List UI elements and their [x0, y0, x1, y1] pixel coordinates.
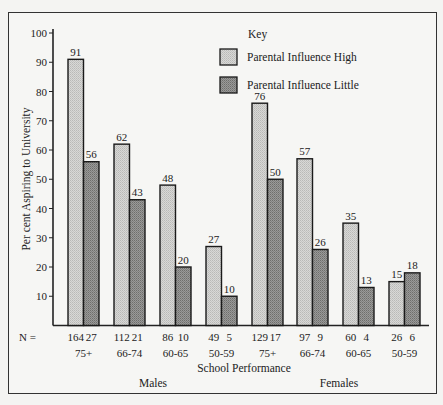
- n-count-label: 4: [364, 331, 370, 343]
- bar-value-label: 76: [254, 90, 266, 102]
- n-count-label: 5: [227, 331, 233, 343]
- legend: KeyParental Influence HighParental Influ…: [220, 28, 359, 93]
- bar-little: [359, 287, 375, 325]
- y-tick-label: 20: [36, 261, 48, 273]
- n-prefix: N =: [19, 331, 36, 343]
- bar-value-label: 57: [299, 145, 311, 157]
- bar-value-label: 43: [132, 186, 144, 198]
- bar-little: [84, 162, 100, 326]
- category-label: 50-59: [209, 347, 235, 359]
- y-tick-label: 100: [31, 27, 48, 39]
- bar-high: [114, 144, 130, 325]
- y-tick-label: 50: [36, 173, 48, 185]
- bar-little: [130, 200, 146, 326]
- category-label: 66-74: [300, 347, 326, 359]
- bar-value-label: 10: [224, 283, 236, 295]
- bar-high: [252, 103, 268, 325]
- bar-value-label: 20: [178, 254, 190, 266]
- bar-high: [343, 223, 359, 325]
- bar-value-label: 27: [208, 233, 220, 245]
- y-tick-label: 90: [36, 56, 48, 68]
- n-count-label: 21: [132, 331, 143, 343]
- bar-little: [268, 179, 284, 325]
- legend-label: Parental Influence High: [247, 51, 357, 64]
- bar-high: [68, 59, 84, 325]
- y-tick-label: 40: [36, 203, 48, 215]
- bar-value-label: 50: [270, 166, 282, 178]
- bar-value-label: 13: [361, 274, 373, 286]
- bar-high: [206, 247, 222, 326]
- bar-high: [160, 185, 176, 325]
- bar-little: [313, 249, 329, 325]
- category-label: 60-65: [346, 347, 372, 359]
- n-count-label: 9: [318, 331, 324, 343]
- legend-label: Parental Influence Little: [247, 79, 359, 91]
- category-label: 66-74: [117, 347, 143, 359]
- bar-chart: 102030405060708090100Per cent Aspiring t…: [0, 0, 443, 405]
- n-count-label: 97: [299, 331, 311, 343]
- y-tick-label: 30: [36, 232, 48, 244]
- x-axis-label: School Performance: [197, 362, 291, 374]
- y-tick-label: 60: [36, 144, 48, 156]
- y-tick-label: 70: [36, 115, 48, 127]
- bar-little: [176, 267, 192, 326]
- y-axis-label: Per cent Aspiring to University: [20, 107, 33, 250]
- bar-value-label: 18: [407, 259, 419, 271]
- bar-little: [405, 273, 421, 326]
- y-tick-label: 10: [36, 290, 48, 302]
- bar-value-label: 26: [315, 236, 327, 248]
- bar-value-label: 62: [116, 131, 127, 143]
- legend-swatch: [220, 77, 237, 93]
- group-label-males: Males: [139, 377, 168, 389]
- legend-title: Key: [248, 28, 267, 41]
- n-count-label: 86: [162, 331, 174, 343]
- legend-swatch: [220, 49, 237, 65]
- bar-value-label: 15: [391, 268, 403, 280]
- n-count-label: 60: [345, 331, 357, 343]
- n-count-label: 49: [208, 331, 220, 343]
- category-label: 75+: [259, 347, 276, 359]
- bar-high: [297, 159, 313, 326]
- n-count-label: 112: [114, 331, 130, 343]
- category-label: 50-59: [392, 347, 418, 359]
- bar-value-label: 48: [162, 172, 174, 184]
- group-label-females: Females: [320, 377, 359, 389]
- bar-high: [389, 282, 405, 326]
- category-label: 60-65: [163, 347, 189, 359]
- category-label: 75+: [75, 347, 92, 359]
- n-count-label: 164: [68, 331, 85, 343]
- n-count-label: 27: [86, 331, 98, 343]
- bar-value-label: 56: [86, 148, 98, 160]
- bar-little: [222, 296, 238, 325]
- bar-value-label: 91: [70, 46, 81, 58]
- n-count-label: 26: [391, 331, 403, 343]
- n-count-label: 10: [178, 331, 190, 343]
- n-count-label: 6: [410, 331, 416, 343]
- bar-value-label: 35: [345, 210, 357, 222]
- n-count-label: 129: [252, 331, 269, 343]
- n-count-label: 17: [270, 331, 282, 343]
- y-tick-label: 80: [36, 86, 48, 98]
